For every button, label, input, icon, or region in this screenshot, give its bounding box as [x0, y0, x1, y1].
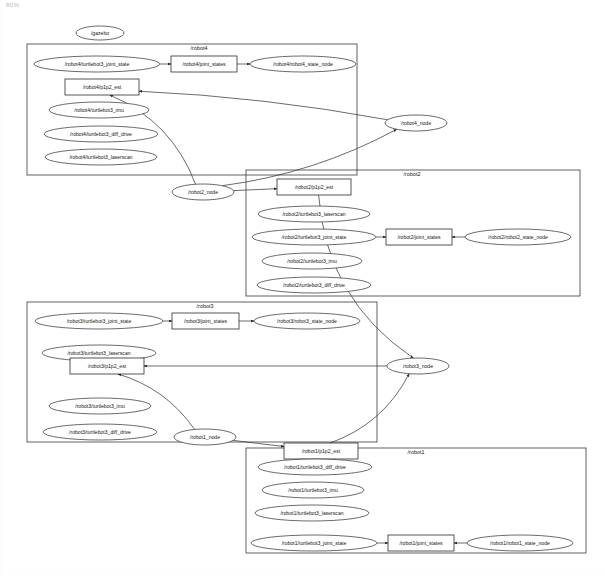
graph-edge [233, 440, 284, 446]
node-label: /robot2/joint_states [397, 234, 440, 240]
group-label: /robot1 [408, 449, 425, 455]
graph-node-robot3_joint_state[interactable]: /robot3/turtlebot3_joint_state [35, 313, 163, 329]
node-label: /robot1/turtlebot3_laserscan [280, 510, 343, 516]
node-label: /robot3/turtlebot3_joint_state [67, 318, 132, 324]
graph-node-robot1_node[interactable]: /robot1_node [174, 429, 236, 445]
node-label: /robot4/joint_states [182, 61, 225, 67]
graph-node-robot4_joint_states[interactable]: /robot4/joint_states [171, 56, 237, 72]
graph-node-robot3_state_node[interactable]: /robot3/robot3_state_node [254, 313, 360, 329]
graph-canvas[interactable]: /robot4/robot2/robot3/robot1 /robot4/tur… [0, 0, 605, 576]
graph-node-robot3_node[interactable]: /robot3_node [387, 358, 449, 374]
graph-node-robot3_p1p2_est[interactable]: /robot3/p1p2_est [70, 358, 144, 374]
graph-node-robot1_joint_states[interactable]: /robot1/joint_states [388, 535, 454, 551]
node-label: /robot3/turtlebot3_imu [75, 403, 125, 409]
node-label: /robot3/turtlebot3_diff_drive [69, 429, 131, 435]
group-label: /robot4 [191, 45, 208, 51]
graph-node-robot3_imu[interactable]: /robot3/turtlebot3_imu [49, 398, 151, 414]
graph-edge [330, 374, 409, 443]
node-label: /robot2/p1p2_est [295, 184, 334, 190]
graph-node-robot4_diff_drive[interactable]: /robot4/turtlebot3_diff_drive [44, 126, 158, 142]
node-label: /robot3/robot3_state_node [277, 318, 337, 324]
graph-node-robot4_state_node[interactable]: /robot4/robot4_state_node [250, 56, 356, 72]
corner-mark-label: 80% [6, 2, 20, 8]
node-label: /robot2_node [188, 189, 218, 195]
group-label: /robot2 [404, 171, 421, 177]
node-label: /robot3/turtlebot3_laserscan [67, 350, 130, 356]
node-label: /robot4/p1p2_est [83, 84, 122, 90]
graph-edge [222, 129, 396, 185]
graph-node-robot1_imu[interactable]: /robot1/turtlebot3_imu [262, 482, 364, 498]
graph-node-robot2_joint_state[interactable]: /robot2/turtlebot3_joint_state [252, 229, 376, 245]
group-layer: /robot4/robot2/robot3/robot1 [27, 44, 586, 553]
node-label: /gazebo [91, 30, 109, 36]
node-label: /robot1/turtlebot3_imu [288, 487, 338, 493]
graph-edge [139, 91, 388, 120]
graph-node-gazebo[interactable]: /gazebo [76, 26, 124, 40]
graph-node-robot1_diff_drive[interactable]: /robot1/turtlebot3_diff_drive [258, 459, 372, 475]
node-label: /robot3/p1p2_est [88, 363, 127, 369]
node-label: /robot1/turtlebot3_diff_drive [284, 464, 346, 470]
node-label: /robot1/joint_states [399, 540, 442, 546]
node-label: /robot1_node [190, 434, 220, 440]
graph-edge [234, 189, 278, 191]
graph-node-robot2_imu[interactable]: /robot2/turtlebot3_imu [262, 253, 362, 269]
node-label: /robot3/joint_states [184, 318, 227, 324]
node-label: /robot4/turtlebot3_laserscan [69, 154, 132, 160]
graph-node-robot2_diff_drive[interactable]: /robot2/turtlebot3_diff_drive [257, 277, 371, 293]
graph-node-robot4_p1p2_est[interactable]: /robot4/p1p2_est [65, 79, 139, 95]
graph-node-robot1_joint_state[interactable]: /robot1/turtlebot3_joint_state [251, 535, 377, 551]
node-label: /robot1/turtlebot3_joint_state [282, 540, 347, 546]
graph-node-robot4_laserscan[interactable]: /robot4/turtlebot3_laserscan [45, 149, 157, 165]
node-label: /robot2/robot2_state_node [488, 234, 548, 240]
graph-node-robot4_joint_state[interactable]: /robot4/turtlebot3_joint_state [34, 56, 160, 72]
node-label: /robot2/turtlebot3_laserscan [282, 211, 345, 217]
node-label: /robot2/turtlebot3_joint_state [282, 234, 347, 240]
node-label: /robot3_node [403, 363, 433, 369]
node-label: /robot4/robot4_state_node [273, 61, 333, 67]
graph-node-robot2_laserscan[interactable]: /robot2/turtlebot3_laserscan [258, 206, 370, 222]
node-label: /robot2/turtlebot3_imu [287, 258, 337, 264]
graph-node-robot2_state_node[interactable]: /robot2/robot2_state_node [465, 229, 571, 245]
node-label: /robot4/turtlebot3_diff_drive [70, 131, 132, 137]
graph-node-robot1_laserscan[interactable]: /robot1/turtlebot3_laserscan [255, 505, 369, 521]
graph-node-robot2_p1p2_est[interactable]: /robot2/p1p2_est [277, 179, 351, 195]
node-layer: /robot4/turtlebot3_joint_state/robot4/jo… [34, 26, 573, 551]
node-label: /robot1/robot1_state_node [490, 540, 550, 546]
graph-node-robot4_imu[interactable]: /robot4/turtlebot3_imu [49, 102, 149, 118]
node-label: /robot4/turtlebot3_joint_state [65, 61, 130, 67]
graph-node-robot4_node[interactable]: /robot4_node [385, 115, 447, 131]
graph-node-robot2_node[interactable]: /robot2_node [172, 184, 234, 200]
node-label: /robot2/turtlebot3_diff_drive [283, 282, 345, 288]
group-label: /robot3 [197, 303, 214, 309]
graph-node-robot2_joint_states[interactable]: /robot2/joint_states [386, 229, 452, 245]
node-label: /robot4_node [401, 120, 431, 126]
graph-node-robot1_p1p2_est[interactable]: /robot1/p1p2_est [284, 443, 358, 459]
computation-graph-svg[interactable]: /robot4/robot2/robot3/robot1 /robot4/tur… [0, 0, 605, 576]
node-label: /robot1/p1p2_est [302, 448, 341, 454]
graph-node-robot3_joint_states[interactable]: /robot3/joint_states [172, 313, 239, 329]
node-label: /robot4/turtlebot3_imu [74, 107, 124, 113]
graph-node-robot3_diff_drive[interactable]: /robot3/turtlebot3_diff_drive [43, 424, 157, 440]
graph-node-robot1_state_node[interactable]: /robot1/robot1_state_node [467, 535, 573, 551]
